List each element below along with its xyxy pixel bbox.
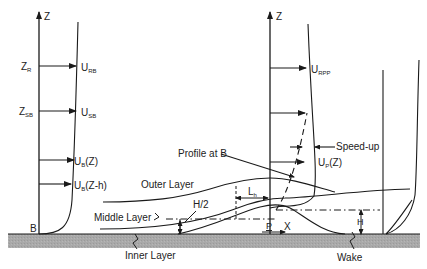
wake-label: Wake [337,253,362,263]
velocity-tail: (Z) [329,157,342,168]
height-label-zr: ZR [21,62,31,73]
left-velocity-profile [39,22,78,234]
height-h-label: H [357,218,364,227]
length-sub: h [254,192,257,198]
outer-layer-boundary [103,178,335,202]
velocity-label-usb: USB [81,108,96,119]
height-sub: SB [25,112,33,118]
middle-layer-label: Middle Layer [94,213,151,223]
half-height-label: H/2 [193,200,209,210]
velocity-tail: (Z) [85,156,98,167]
ground-surface [8,234,420,248]
velocity-label-up-z: UP(Z) [318,158,342,169]
velocity-label-urpp: URPP [311,65,331,76]
point-b-label: B [30,224,37,234]
velocity-sub: SB [88,113,96,119]
velocity-tail: (Z-h) [85,180,107,191]
height-label-zsb: ZSB [19,107,33,118]
point-p-label: P [266,222,272,231]
height-sub: R [27,67,31,73]
wake-velocity-profile [386,60,419,234]
speed-up-label: Speed-up [336,142,379,152]
diagram-lines [0,0,427,269]
hill-flow-diagram: Z ZR ZSB URB USB UB(Z) UB(Z-h) B Z URPP … [0,0,427,269]
middle-z-axis-label: Z [276,12,282,22]
x-axis-label: X [284,222,291,232]
velocity-sub: RB [88,68,96,74]
velocity-label-urb: URB [81,63,97,74]
velocity-label-ub-zh: UB(Z-h) [74,181,107,192]
left-z-axis-label: Z [44,12,50,22]
profile-at-b-label: Profile at B [178,149,227,159]
velocity-label-ub-z: UB(Z) [74,157,98,168]
outer-layer-label: Outer Layer [141,180,194,190]
length-label: Lh [248,187,257,198]
velocity-sub: RPP [318,70,330,76]
inner-layer-label: Inner Layer [125,251,176,261]
